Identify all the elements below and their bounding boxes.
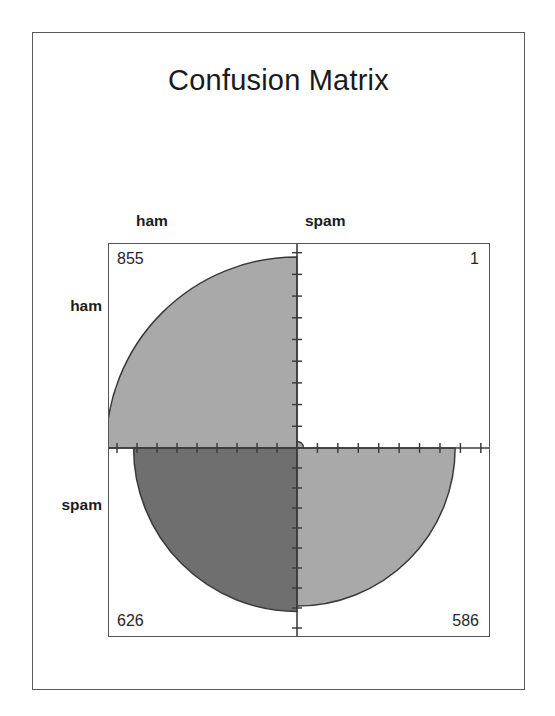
column-label-spam: spam [305, 212, 346, 230]
quadrant-wedge-top-left [109, 257, 297, 448]
column-label-ham: ham [136, 212, 168, 230]
row-label-spam: spam [36, 496, 102, 514]
fourfold-plot-svg [109, 244, 489, 636]
quadrant-wedge-bottom-left [134, 448, 297, 611]
quadrant-wedge-top-right [297, 441, 304, 448]
figure-canvas: Confusion Matrix ham spam ham spam 855 1… [0, 0, 555, 716]
row-label-ham: ham [36, 297, 102, 315]
quadrant-wedge-bottom-right [297, 448, 455, 606]
cell-count-ham-ham: 855 [117, 250, 144, 268]
quadrant-wedges [109, 257, 455, 611]
cell-count-spam-ham: 626 [117, 612, 144, 630]
cell-count-ham-spam: 1 [470, 250, 479, 268]
fourfold-plot-panel: 855 1 626 586 [108, 243, 490, 637]
cell-count-spam-spam: 586 [452, 612, 479, 630]
page-title: Confusion Matrix [32, 64, 525, 97]
